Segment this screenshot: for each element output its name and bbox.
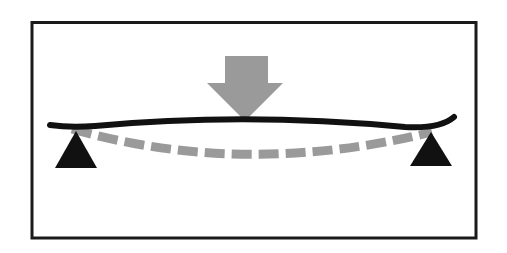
down-arrow-icon <box>207 56 283 121</box>
beam-deflection-diagram <box>0 0 507 253</box>
beam <box>50 117 454 127</box>
frame-border <box>32 23 476 239</box>
deflected-beam-dashed <box>72 129 432 154</box>
right-support-triangle-icon <box>410 132 452 166</box>
